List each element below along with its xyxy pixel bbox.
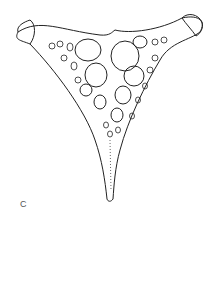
- vacuole: [94, 95, 106, 109]
- tail-stipple: [110, 140, 111, 190]
- vacuole: [85, 63, 107, 87]
- vacuole: [124, 66, 144, 86]
- panel-label: C: [20, 199, 27, 209]
- vacuole: [111, 108, 123, 122]
- vacuole: [133, 36, 147, 48]
- cell-outline: [17, 17, 203, 201]
- vacuole: [80, 84, 92, 96]
- vacuole: [115, 86, 131, 104]
- cell-illustration: [0, 0, 217, 290]
- vacuole: [75, 39, 101, 61]
